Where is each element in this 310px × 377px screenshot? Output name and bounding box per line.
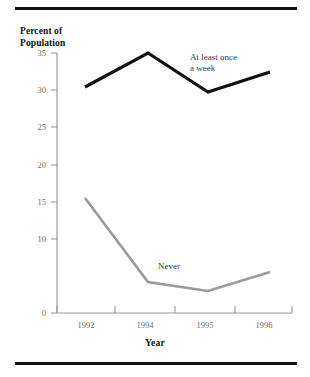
x-tick-label-1994: 1994	[125, 320, 165, 330]
y-tick-marks	[51, 53, 57, 313]
y-tick-label-25: 25	[24, 122, 46, 132]
y-tick-label-10: 10	[24, 234, 46, 244]
x-tick-label-1992: 1992	[66, 320, 106, 330]
y-tick-label-0: 0	[24, 308, 46, 318]
y-tick-label-20: 20	[24, 160, 46, 170]
series-line-never	[85, 198, 270, 291]
x-tick-marks	[57, 306, 292, 313]
figure-container: Percent of Population 35	[0, 0, 310, 377]
x-tick-label-1996: 1996	[244, 320, 284, 330]
x-tick-label-1995: 1995	[185, 320, 225, 330]
y-tick-label-35: 35	[24, 48, 46, 58]
series-line-at-least-once-a-week	[85, 53, 270, 92]
y-tick-label-15: 15	[24, 197, 46, 207]
y-tick-label-30: 30	[24, 85, 46, 95]
x-axis-title: Year	[0, 338, 310, 348]
series-annotation-at-least-once-a-week: At least once a week	[190, 52, 237, 74]
series-annotation-never: Never	[158, 261, 180, 272]
